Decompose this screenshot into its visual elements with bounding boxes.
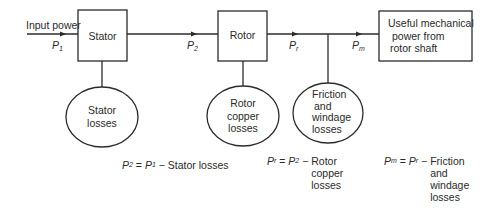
- arrow-icon: [356, 32, 362, 37]
- output-label: Useful mechanical power from rotor shaft: [388, 17, 474, 55]
- arrow-icon: [292, 32, 298, 37]
- rotor-label: Rotor: [218, 29, 267, 41]
- stator-losses-label: Stator losses: [72, 104, 132, 130]
- arrow-icon: [60, 32, 66, 37]
- flow-p2: P2: [187, 39, 198, 55]
- stator-label: Stator: [78, 30, 127, 42]
- flow-p1: P1: [52, 39, 63, 55]
- equation-pm: Pm = Pr − Friction and windage losses: [384, 155, 469, 203]
- rotor-copper-losses-label: Rotor copper losses: [213, 97, 273, 135]
- friction-windage-losses-label: Friction and windage losses: [312, 89, 351, 135]
- equation-pr: Pr = P2 − Rotor copper losses: [267, 155, 343, 191]
- flow-pr: Pr: [289, 39, 298, 55]
- arrow-icon: [191, 32, 197, 37]
- equation-p2: P2 = P1 − Stator losses: [122, 159, 228, 171]
- flow-pm: Pm: [352, 39, 365, 55]
- input-power-label: Input power: [26, 19, 81, 31]
